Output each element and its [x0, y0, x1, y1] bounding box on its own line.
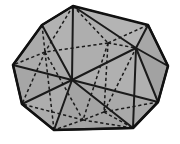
icosahedron-svg	[0, 0, 180, 144]
visible-edge-apex-to-center	[72, 6, 73, 80]
icosahedron-figure	[0, 0, 180, 144]
